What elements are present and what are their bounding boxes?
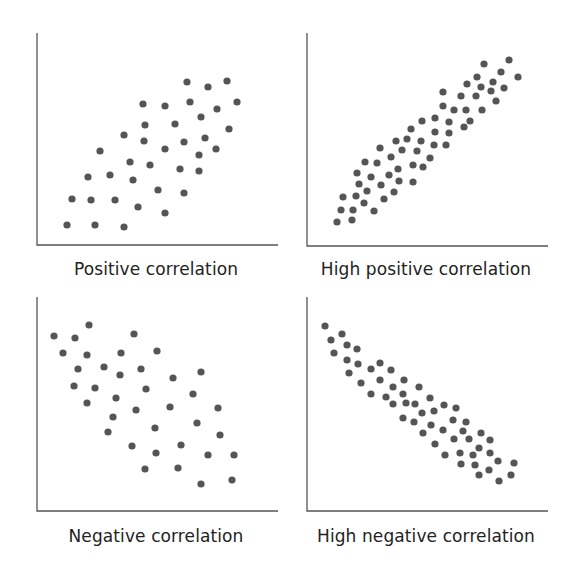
data-point xyxy=(376,376,383,383)
data-point xyxy=(195,151,202,158)
data-point xyxy=(352,192,359,199)
data-point xyxy=(216,431,223,438)
data-point xyxy=(419,163,426,170)
data-point xyxy=(399,390,406,397)
data-point xyxy=(134,203,141,210)
data-point xyxy=(500,84,507,91)
data-point xyxy=(409,178,416,185)
data-point xyxy=(106,171,113,178)
data-point xyxy=(480,60,487,67)
data-point xyxy=(385,171,392,178)
data-point xyxy=(354,360,361,367)
data-point xyxy=(400,376,407,383)
data-point xyxy=(197,113,204,120)
data-point xyxy=(353,169,360,176)
data-point xyxy=(91,384,98,391)
data-point xyxy=(343,356,350,363)
data-point xyxy=(345,369,352,376)
data-point xyxy=(373,159,380,166)
data-point xyxy=(439,426,446,433)
data-point xyxy=(330,349,337,356)
data-point xyxy=(116,371,123,378)
data-point xyxy=(177,441,184,448)
data-point xyxy=(151,424,158,431)
data-point xyxy=(465,435,472,442)
chart-title-high-positive: High positive correlation xyxy=(321,259,531,279)
axis-lines xyxy=(307,297,548,511)
data-point xyxy=(403,135,410,142)
correlation-charts xyxy=(0,0,571,565)
data-point xyxy=(445,118,452,125)
data-point xyxy=(126,158,133,165)
data-point xyxy=(392,137,399,144)
data-point xyxy=(161,145,168,152)
data-point xyxy=(363,187,370,194)
data-point xyxy=(442,141,449,148)
data-point xyxy=(376,359,383,366)
data-point xyxy=(459,427,466,434)
data-point xyxy=(450,435,457,442)
data-point xyxy=(128,442,135,449)
scatter-panel-positive xyxy=(37,33,278,245)
data-point xyxy=(233,98,240,105)
data-point xyxy=(427,421,434,428)
data-point xyxy=(489,78,496,85)
axis-lines xyxy=(37,33,278,245)
data-point xyxy=(440,401,447,408)
data-point xyxy=(507,471,514,478)
data-point xyxy=(204,451,211,458)
data-point xyxy=(197,480,204,487)
data-point xyxy=(87,196,94,203)
data-point xyxy=(439,102,446,109)
data-point xyxy=(152,449,159,456)
data-point xyxy=(395,177,402,184)
data-point xyxy=(154,186,161,193)
data-point xyxy=(394,165,401,172)
data-point xyxy=(505,56,512,63)
data-point xyxy=(161,102,168,109)
data-point xyxy=(63,221,70,228)
data-point xyxy=(510,459,517,466)
data-point xyxy=(213,105,220,112)
data-point xyxy=(457,460,464,467)
data-point xyxy=(357,379,364,386)
data-point xyxy=(337,206,344,213)
data-point xyxy=(195,167,202,174)
scatter-panel-high-positive xyxy=(307,33,548,246)
data-point xyxy=(339,193,346,200)
data-point xyxy=(100,363,107,370)
chart-title-high-negative: High negative correlation xyxy=(317,526,535,546)
data-point xyxy=(418,117,425,124)
data-point xyxy=(475,471,482,478)
data-point xyxy=(380,195,387,202)
data-point xyxy=(472,92,479,99)
data-point xyxy=(70,382,77,389)
data-point xyxy=(197,368,204,375)
axis-lines xyxy=(37,297,278,511)
data-point xyxy=(399,414,406,421)
data-point xyxy=(111,196,118,203)
data-point xyxy=(367,173,374,180)
data-point xyxy=(353,345,360,352)
data-point xyxy=(169,374,176,381)
data-point xyxy=(129,176,136,183)
data-point xyxy=(360,199,367,206)
data-point xyxy=(137,365,144,372)
data-point xyxy=(204,83,211,90)
data-point xyxy=(466,117,473,124)
data-point xyxy=(431,114,438,121)
data-point xyxy=(183,78,190,85)
data-point xyxy=(413,147,420,154)
data-point xyxy=(85,321,92,328)
data-point xyxy=(68,195,75,202)
data-point xyxy=(180,138,187,145)
data-point xyxy=(71,334,78,341)
data-point xyxy=(201,134,208,141)
data-point xyxy=(431,128,438,135)
data-point xyxy=(214,404,221,411)
data-point xyxy=(462,106,469,113)
axis-lines xyxy=(307,33,548,246)
data-point xyxy=(74,365,81,372)
data-point xyxy=(475,444,482,451)
data-point xyxy=(223,77,230,84)
